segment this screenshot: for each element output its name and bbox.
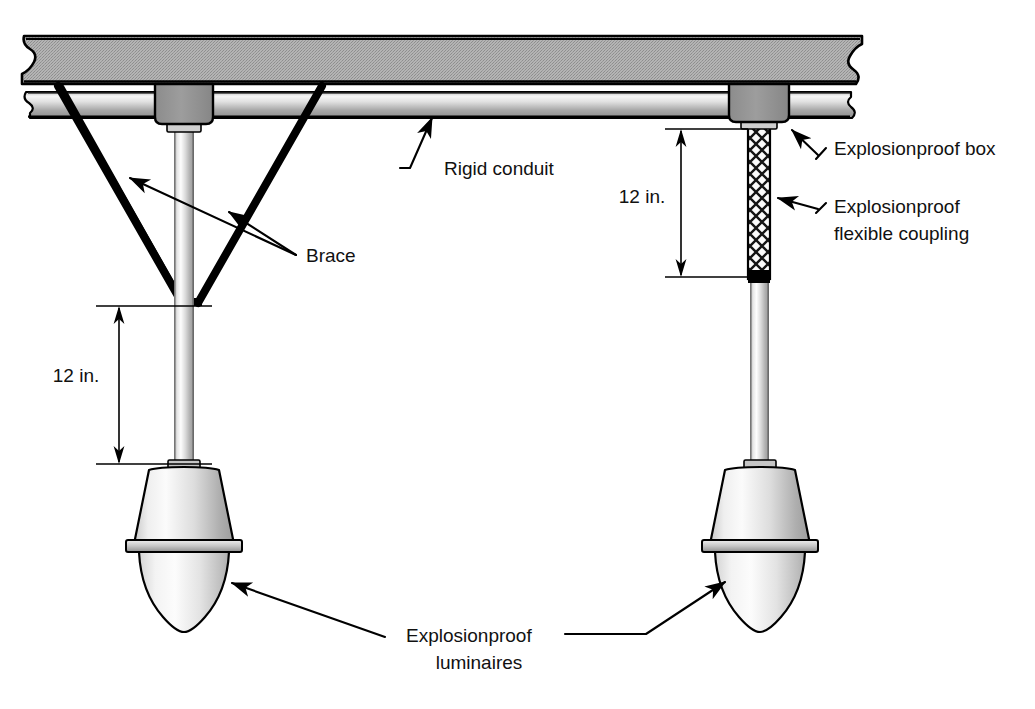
right-luminaire (702, 460, 818, 632)
explosionproof-box-label: Explosionproof box (834, 138, 996, 159)
right-dimension-12in: 12 in. (619, 129, 748, 277)
explosionproof-flexible-coupling (748, 127, 770, 283)
left-assembly: 12 in. (53, 84, 322, 632)
explosionproof-luminaires-label-line1: Explosionproof (406, 625, 532, 646)
explosionproof-flexible-coupling-label-line2: flexible coupling (834, 223, 969, 244)
ceiling-slab (22, 36, 862, 84)
left-stem (174, 128, 194, 466)
left-dimension-label: 12 in. (53, 365, 99, 386)
left-luminaire (126, 460, 242, 632)
right-explosionproof-box (729, 84, 789, 122)
figure-canvas: 12 in. (0, 0, 1035, 709)
label-explosionproof-flexible-coupling: Explosionproof flexible coupling (778, 196, 969, 244)
explosionproof-luminaires-label-line2: luminaires (436, 652, 523, 673)
right-assembly: 12 in. (619, 84, 818, 632)
right-stem (750, 283, 769, 466)
right-dimension-label: 12 in. (619, 186, 665, 207)
label-brace: Brace (130, 178, 356, 266)
left-explosionproof-box (155, 84, 213, 124)
explosionproof-flexible-coupling-label-line1: Explosionproof (834, 196, 960, 217)
label-explosionproof-box: Explosionproof box (792, 130, 996, 159)
rigid-conduit-label: Rigid conduit (444, 158, 555, 179)
explosionproof-luminaire-diagram: 12 in. (0, 0, 1035, 709)
brace-label: Brace (306, 245, 356, 266)
label-explosionproof-luminaires: Explosionproof luminaires (232, 582, 725, 673)
label-rigid-conduit: Rigid conduit (400, 118, 555, 179)
